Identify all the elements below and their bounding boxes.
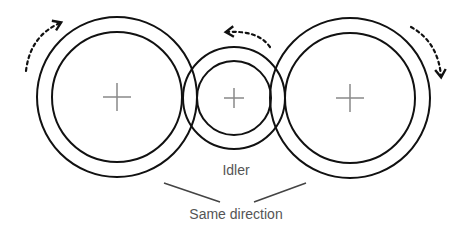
gear-train-diagram: [0, 0, 471, 230]
same-direction-pointer-right: [254, 183, 306, 202]
left-gear: [37, 17, 197, 177]
idler-label: Idler: [222, 162, 249, 178]
right-gear: [270, 18, 430, 178]
left-gear-center-mark: [103, 83, 131, 111]
same-direction-pointer-left: [164, 183, 220, 202]
right-gear-center-mark: [336, 84, 364, 112]
same-direction-label: Same direction: [189, 206, 282, 222]
idler-gear-center-mark: [224, 88, 244, 108]
idler-counterclockwise-arrow-icon: [227, 32, 270, 47]
